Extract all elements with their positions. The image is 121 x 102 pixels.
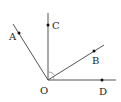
label-o: O (40, 85, 48, 96)
geometry-diagram: A C B O D (0, 0, 121, 102)
point-a (18, 32, 21, 35)
angle-arc-cob (48, 72, 55, 76)
label-b: B (92, 55, 99, 66)
point-b (93, 50, 96, 53)
label-a: A (8, 31, 17, 42)
point-d (101, 79, 104, 82)
label-c: C (52, 20, 60, 31)
point-c (47, 24, 50, 27)
label-d: D (99, 86, 107, 97)
